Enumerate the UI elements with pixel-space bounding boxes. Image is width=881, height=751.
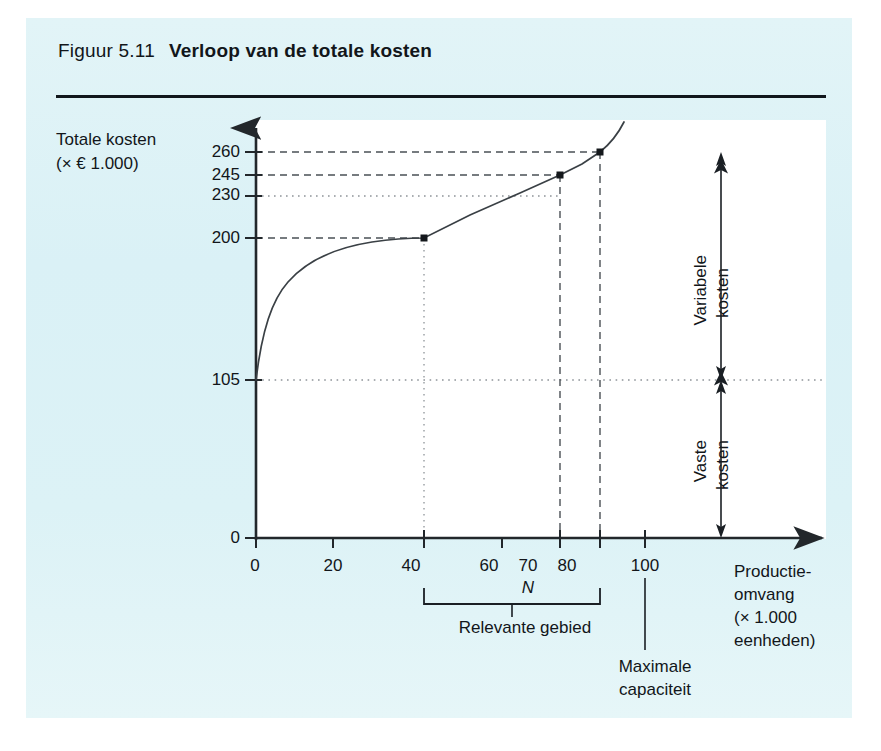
figure-panel-root: Figuur 5.11Verloop van de totale kosten … <box>0 0 881 751</box>
total-cost-curve <box>256 122 624 380</box>
y-axis <box>245 128 262 540</box>
chart-vector-layer <box>0 0 881 751</box>
data-point-40-200 <box>421 235 428 242</box>
fixed-costs-arrow <box>716 380 726 538</box>
x-axis <box>256 530 822 548</box>
variable-costs-arrow <box>716 152 726 380</box>
relevant-range-bracket <box>424 588 600 617</box>
data-point-80-260 <box>597 149 604 156</box>
data-point-70-245 <box>557 172 564 179</box>
